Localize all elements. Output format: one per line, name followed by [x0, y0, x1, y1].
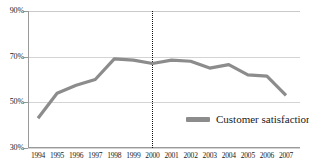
x-axis-label-1996: 1996 — [69, 151, 83, 161]
x-axis-label-2005: 2005 — [241, 151, 255, 161]
y-tick-30 — [24, 148, 28, 149]
y-axis-label-70: 70% — [10, 53, 24, 61]
gridline-30 — [28, 148, 300, 149]
legend-swatch-customer-satisfaction — [186, 117, 210, 122]
series-line-0 — [38, 59, 286, 118]
x-axis-label-1995: 1995 — [50, 151, 64, 161]
x-axis-label-1997: 1997 — [88, 151, 102, 161]
y-axis-label-50: 50% — [10, 98, 24, 106]
x-axis-tick-labels: 1994199519961997199819992000200120022003… — [28, 151, 300, 165]
chart-container: 30%50%70%90% 199419951996199719981999200… — [0, 0, 309, 168]
x-axis-label-2006: 2006 — [260, 151, 274, 161]
x-axis-label-2002: 2002 — [184, 151, 198, 161]
x-axis-label-2004: 2004 — [222, 151, 236, 161]
x-axis-label-2001: 2001 — [164, 151, 178, 161]
x-axis-label-2000: 2000 — [145, 151, 159, 161]
y-axis-label-30: 30% — [10, 144, 24, 152]
chart-legend: Customer satisfaction — [186, 113, 309, 125]
y-axis-label-90: 90% — [10, 7, 24, 15]
x-axis-label-2007: 2007 — [279, 151, 293, 161]
plot-area: 30%50%70%90% — [28, 11, 300, 148]
x-axis-label-1994: 1994 — [31, 151, 45, 161]
x-axis-label-2003: 2003 — [203, 151, 217, 161]
series-group — [38, 59, 286, 118]
legend-label-customer-satisfaction: Customer satisfaction — [216, 113, 309, 125]
series-svg — [28, 11, 300, 148]
x-axis-label-1998: 1998 — [107, 151, 121, 161]
x-axis-label-1999: 1999 — [126, 151, 140, 161]
